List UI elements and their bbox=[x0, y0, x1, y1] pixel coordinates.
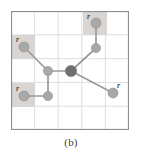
graph-node-root bbox=[65, 65, 76, 76]
graph-svg: rrrr bbox=[11, 11, 129, 130]
graph-node bbox=[91, 18, 101, 28]
graph-node bbox=[43, 66, 52, 75]
graph-node bbox=[19, 91, 29, 101]
graph-plot-area: rrrr bbox=[11, 11, 129, 130]
graph-node bbox=[19, 42, 29, 52]
figure-caption: (b) bbox=[0, 136, 142, 148]
graph-node bbox=[43, 91, 52, 100]
graph-node bbox=[91, 43, 100, 52]
figure-container: rrrr (b) bbox=[0, 0, 142, 162]
